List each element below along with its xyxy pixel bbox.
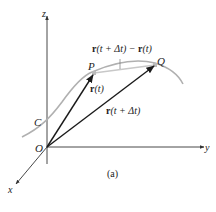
z-axis-label: z	[41, 8, 46, 19]
vector-r-t-label: r(t)	[90, 83, 105, 95]
origin-label: O	[35, 142, 43, 154]
curve-label: C	[34, 116, 42, 128]
vector-r-t-dt-label: r(t + Δt)	[106, 105, 141, 117]
vector-diagram: z y x O C P Q r(t) r(t + Δt) r(t + Δt) −…	[0, 0, 216, 212]
y-axis-label: y	[204, 142, 210, 153]
difference-label: r(t + Δt) − r(t)	[92, 43, 153, 55]
figure-caption: (a)	[107, 168, 118, 180]
point-q-label: Q	[157, 55, 165, 67]
x-axis-label: x	[7, 184, 13, 195]
point-p-label: P	[87, 60, 95, 72]
